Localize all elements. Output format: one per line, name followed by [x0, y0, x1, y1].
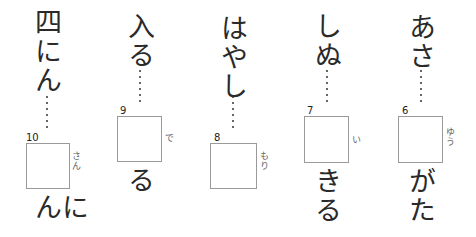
question-number: 7: [307, 106, 313, 116]
following-text: る: [126, 166, 153, 195]
dot-leader: [139, 70, 142, 102]
context-text: はやし: [219, 14, 246, 101]
question-number: 10: [26, 133, 39, 143]
reading-hint: で: [164, 133, 173, 143]
answer-box[interactable]: [26, 143, 70, 189]
following-text: きる: [313, 167, 340, 225]
dot-leader: [232, 96, 235, 128]
context-text: 四にん: [33, 8, 60, 95]
dot-leader: [46, 96, 49, 128]
dot-leader: [326, 70, 329, 102]
reading-hint: ゆう: [445, 127, 454, 147]
reading-hint: さん: [71, 151, 80, 171]
reading-hint: い: [351, 135, 360, 145]
answer-box[interactable]: [117, 116, 162, 162]
answer-box[interactable]: [304, 116, 349, 163]
reading-hint: もり: [259, 151, 268, 171]
context-text: あさ: [407, 13, 434, 71]
question-number: 9: [120, 106, 126, 116]
question-number: 8: [214, 133, 220, 143]
following-text: にん: [33, 193, 87, 237]
answer-box[interactable]: [398, 116, 443, 163]
context-text: しぬ: [313, 12, 340, 70]
question-number: 6: [402, 106, 408, 116]
context-text: 入る: [126, 12, 153, 70]
following-text: がた: [407, 167, 434, 225]
answer-box[interactable]: [210, 143, 257, 189]
dot-leader: [420, 70, 423, 102]
